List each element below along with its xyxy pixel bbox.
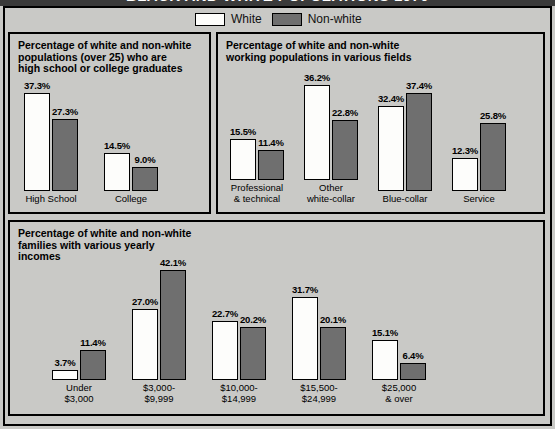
bar-group: 37.3%27.3%High School bbox=[24, 80, 78, 204]
bar-item: 22.7% bbox=[212, 308, 238, 380]
bar-value-label: 36.2% bbox=[304, 72, 330, 83]
bar-item: 15.5% bbox=[230, 126, 256, 180]
bar-item: 3.7% bbox=[52, 357, 78, 380]
bar-nonwhite bbox=[52, 119, 78, 191]
bar-value-label: 31.7% bbox=[292, 284, 318, 295]
category-label: College bbox=[115, 194, 147, 205]
bar-nonwhite bbox=[132, 167, 158, 191]
bar-item: 37.4% bbox=[406, 80, 432, 191]
bar-pair: 27.0%42.1% bbox=[132, 257, 186, 380]
bar-item: 11.4% bbox=[258, 137, 284, 180]
bar-white bbox=[132, 309, 158, 380]
bar-item: 20.2% bbox=[240, 314, 266, 380]
bar-value-label: 27.3% bbox=[52, 106, 78, 117]
bar-white bbox=[304, 85, 330, 180]
bar-white bbox=[212, 321, 238, 380]
bar-value-label: 20.2% bbox=[240, 314, 266, 325]
bar-item: 9.0% bbox=[132, 154, 158, 191]
bar-pair: 14.5%9.0% bbox=[104, 140, 158, 191]
legend-item-white: White bbox=[195, 12, 262, 26]
bar-item: 36.2% bbox=[304, 72, 330, 180]
bar-item: 15.1% bbox=[372, 327, 398, 380]
bar-value-label: 25.8% bbox=[480, 110, 506, 121]
bar-item: 11.4% bbox=[80, 337, 106, 380]
bar-nonwhite bbox=[332, 120, 358, 180]
bar-value-label: 22.7% bbox=[212, 308, 238, 319]
bar-value-label: 15.1% bbox=[372, 327, 398, 338]
poster-title: BLACK AND WHITE POPULATIONS 1970 bbox=[0, 0, 555, 4]
bar-group: 27.0%42.1%$3,000- $9,999 bbox=[132, 257, 186, 404]
bar-nonwhite bbox=[400, 363, 426, 380]
category-label: $3,000- $9,999 bbox=[143, 383, 175, 404]
panel-income: Percentage of white and non-white famili… bbox=[8, 220, 545, 416]
bar-value-label: 32.4% bbox=[378, 93, 404, 104]
bar-group: 22.7%20.2%$10,000- $14,999 bbox=[212, 308, 266, 404]
bar-white bbox=[24, 93, 50, 191]
bar-group: 12.3%25.8%Service bbox=[452, 110, 506, 204]
bar-pair: 15.1%6.4% bbox=[372, 327, 426, 380]
legend-label-white: White bbox=[231, 12, 262, 26]
bar-pair: 36.2%22.8% bbox=[304, 72, 358, 180]
bar-white bbox=[378, 106, 404, 191]
bar-item: 27.0% bbox=[132, 296, 158, 380]
bar-pair: 37.3%27.3% bbox=[24, 80, 78, 191]
bar-white bbox=[104, 153, 130, 191]
category-label: Service bbox=[463, 194, 495, 205]
bar-group: 36.2%22.8%Other white-collar bbox=[304, 72, 358, 204]
bar-nonwhite bbox=[160, 270, 186, 380]
bar-item: 42.1% bbox=[160, 257, 186, 380]
bar-item: 14.5% bbox=[104, 140, 130, 191]
panel-income-groups: 3.7%11.4%Under $3,00027.0%42.1%$3,000- $… bbox=[10, 257, 543, 404]
bar-item: 32.4% bbox=[378, 93, 404, 191]
infographic-poster: BLACK AND WHITE POPULATIONS 1970 White N… bbox=[0, 0, 555, 429]
chart-legend: White Non-white bbox=[195, 11, 362, 27]
category-label: $25,000 & over bbox=[382, 383, 416, 404]
bar-item: 6.4% bbox=[400, 350, 426, 380]
bar-group: 15.5%11.4%Professional & technical bbox=[230, 126, 284, 204]
bar-item: 31.7% bbox=[292, 284, 318, 380]
bar-nonwhite bbox=[240, 327, 266, 380]
bar-nonwhite bbox=[258, 150, 284, 180]
bar-value-label: 3.7% bbox=[55, 357, 76, 368]
bar-pair: 12.3%25.8% bbox=[452, 110, 506, 191]
bar-white bbox=[452, 158, 478, 190]
legend-item-nonwhite: Non-white bbox=[272, 12, 362, 26]
bar-item: 20.1% bbox=[320, 314, 346, 380]
bar-value-label: 11.4% bbox=[80, 337, 105, 348]
category-label: Professional & technical bbox=[231, 183, 283, 204]
bar-value-label: 27.0% bbox=[132, 296, 158, 307]
bar-item: 25.8% bbox=[480, 110, 506, 191]
bar-nonwhite bbox=[480, 123, 506, 191]
category-label: Under $3,000 bbox=[64, 383, 93, 404]
bar-group: 15.1%6.4%$25,000 & over bbox=[372, 327, 426, 404]
legend-label-nonwhite: Non-white bbox=[308, 12, 362, 26]
bar-pair: 31.7%20.1% bbox=[292, 284, 346, 380]
category-label: Blue-collar bbox=[383, 194, 428, 205]
bar-value-label: 15.5% bbox=[230, 126, 256, 137]
bar-white bbox=[372, 340, 398, 380]
category-label: $10,000- $14,999 bbox=[220, 383, 258, 404]
bar-value-label: 22.8% bbox=[332, 107, 358, 118]
bar-item: 37.3% bbox=[24, 80, 50, 191]
category-label: $15,500- $24,999 bbox=[300, 383, 338, 404]
bar-value-label: 37.3% bbox=[24, 80, 50, 91]
bar-pair: 15.5%11.4% bbox=[230, 126, 284, 180]
bar-pair: 22.7%20.2% bbox=[212, 308, 266, 380]
bar-value-label: 12.3% bbox=[452, 145, 478, 156]
bar-value-label: 6.4% bbox=[403, 350, 424, 361]
bar-white bbox=[52, 370, 78, 380]
bar-value-label: 14.5% bbox=[104, 140, 130, 151]
panel-education-groups: 37.3%27.3%High School14.5%9.0%College bbox=[10, 80, 209, 204]
category-label: High School bbox=[25, 194, 76, 205]
panel-education-title: Percentage of white and non-white popula… bbox=[18, 40, 191, 75]
bar-group: 31.7%20.1%$15,500- $24,999 bbox=[292, 284, 346, 404]
bar-nonwhite bbox=[320, 327, 346, 380]
bar-item: 22.8% bbox=[332, 107, 358, 180]
category-label: Other white-collar bbox=[307, 183, 355, 204]
bar-item: 12.3% bbox=[452, 145, 478, 190]
bar-white bbox=[292, 297, 318, 380]
nonwhite-swatch-icon bbox=[272, 13, 302, 26]
bar-item: 27.3% bbox=[52, 106, 78, 191]
bar-group: 32.4%37.4%Blue-collar bbox=[378, 80, 432, 204]
panel-occupation-groups: 15.5%11.4%Professional & technical36.2%2… bbox=[218, 72, 543, 204]
